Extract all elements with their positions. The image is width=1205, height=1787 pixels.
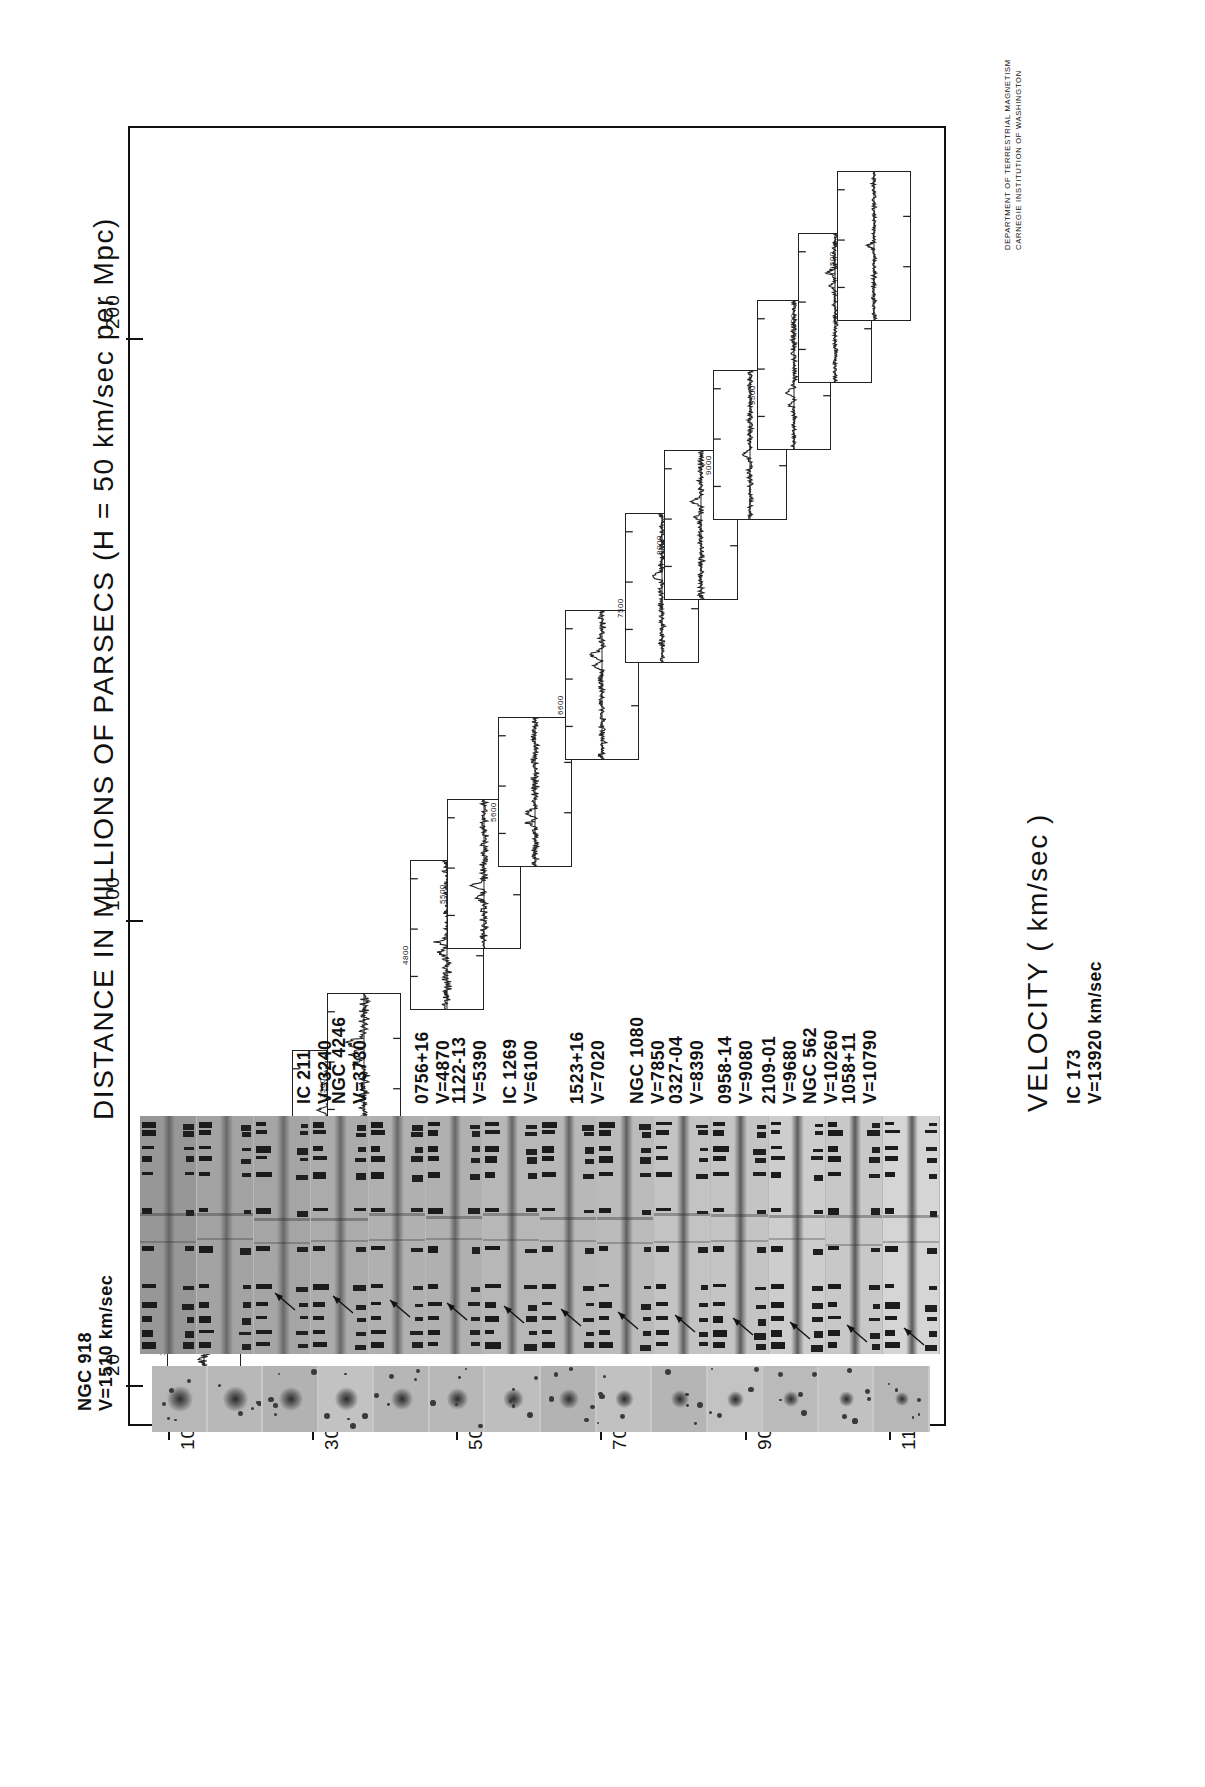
comparison-line: [872, 1344, 879, 1350]
comparison-line: [142, 1146, 154, 1149]
galaxy-continuum: [849, 1116, 862, 1354]
comparison-line: [755, 1287, 765, 1290]
comparison-line: [299, 1303, 309, 1307]
comparison-line: [357, 1125, 365, 1131]
galaxy-name: NGC 562: [800, 1027, 821, 1104]
comparison-line: [542, 1284, 556, 1289]
comparison-line: [297, 1247, 308, 1252]
spectrogram-column: [826, 1116, 882, 1354]
sky-line: [311, 1240, 367, 1242]
comparison-line: [699, 1342, 708, 1346]
field-star: [709, 1411, 712, 1414]
comparison-line: [313, 1316, 324, 1320]
spectrum-tick-label: 7500: [616, 598, 625, 618]
comparison-line: [811, 1345, 823, 1352]
comparison-line: [713, 1208, 724, 1212]
comparison-line: [199, 1208, 208, 1212]
comparison-line: [640, 1157, 651, 1164]
sky-line: [654, 1241, 710, 1243]
comparison-line: [756, 1344, 765, 1350]
comparison-line: [313, 1302, 325, 1307]
comparison-line: [771, 1342, 785, 1349]
comparison-line: [696, 1174, 708, 1179]
comparison-line: [699, 1303, 708, 1307]
sky-line: [883, 1241, 939, 1243]
comparison-line: [757, 1247, 766, 1253]
comparison-line: [199, 1172, 210, 1176]
comparison-line: [526, 1149, 537, 1155]
comparison-line: [698, 1247, 708, 1253]
comparison-line: [641, 1148, 651, 1153]
galaxy-image-plate-strip: [152, 1366, 930, 1432]
comparison-line: [354, 1208, 366, 1211]
comparison-line: [929, 1286, 937, 1290]
comparison-line: [713, 1284, 726, 1287]
galaxy-blob: [839, 1391, 854, 1406]
field-star: [278, 1373, 281, 1376]
galaxy-thumbnail: [819, 1366, 873, 1432]
comparison-line: [485, 1208, 499, 1212]
sky-line: [483, 1213, 539, 1216]
comparison-line: [873, 1304, 880, 1309]
galaxy-thumbnail: [263, 1366, 317, 1432]
comparison-line: [713, 1246, 724, 1252]
comparison-line: [242, 1148, 251, 1151]
field-star: [917, 1398, 921, 1402]
comparison-line: [357, 1318, 365, 1322]
comparison-line: [771, 1246, 783, 1252]
galaxy-blob: [279, 1387, 303, 1411]
galaxy-velocity: V=3730: [350, 1017, 371, 1104]
comparison-line: [869, 1157, 880, 1163]
comparison-line: [186, 1156, 194, 1162]
galaxy-blob: [447, 1388, 469, 1410]
field-star: [569, 1367, 573, 1371]
galaxy-name: NGC 918: [75, 1275, 96, 1411]
comparison-line: [199, 1330, 214, 1333]
field-star: [549, 1396, 555, 1402]
comparison-line: [297, 1211, 308, 1217]
comparison-line: [542, 1172, 556, 1177]
comparison-line: [656, 1284, 666, 1289]
comparison-line: [371, 1122, 384, 1128]
comparison-line: [699, 1318, 709, 1322]
field-star: [895, 1388, 898, 1391]
comparison-line: [296, 1287, 309, 1292]
spectrum-tick-label: 4800: [401, 945, 410, 965]
galaxy-velocity: V=5390: [470, 1037, 491, 1104]
field-star: [347, 1418, 350, 1421]
comparison-line: [885, 1342, 900, 1348]
comparison-line: [599, 1302, 612, 1308]
sky-line: [540, 1240, 596, 1242]
field-star: [374, 1393, 379, 1398]
comparison-line: [582, 1125, 594, 1131]
comparison-line: [656, 1130, 669, 1135]
comparison-line: [485, 1246, 500, 1250]
comparison-line: [815, 1131, 822, 1135]
comparison-line: [771, 1316, 785, 1321]
comparison-line: [828, 1122, 838, 1127]
galaxy-velocity: V=1510 km/sec: [96, 1275, 117, 1411]
comparison-line: [371, 1284, 383, 1288]
comparison-line: [142, 1156, 152, 1162]
comparison-line: [183, 1131, 194, 1137]
comparison-line: [242, 1344, 252, 1350]
comparison-line: [142, 1284, 156, 1288]
comparison-line: [869, 1285, 880, 1290]
field-star: [865, 1389, 870, 1394]
spectrogram-plate-strip: [140, 1116, 940, 1354]
sky-line: [311, 1218, 367, 1221]
comparison-line: [586, 1332, 594, 1336]
comparison-line: [641, 1304, 652, 1310]
comparison-line: [411, 1132, 423, 1137]
comparison-line: [644, 1286, 652, 1289]
galaxy-name: NGC 4246: [329, 1017, 350, 1104]
galaxy-name: 0327-04: [666, 1036, 687, 1104]
comparison-line: [885, 1316, 897, 1320]
field-star: [478, 1424, 482, 1428]
comparison-line: [199, 1246, 213, 1253]
comparison-line: [599, 1284, 609, 1287]
sky-line: [369, 1213, 425, 1216]
comparison-line: [585, 1159, 594, 1164]
comparison-line: [885, 1302, 900, 1309]
comparison-line: [642, 1132, 652, 1138]
